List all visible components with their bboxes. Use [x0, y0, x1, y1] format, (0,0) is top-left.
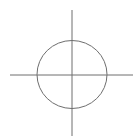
diagram-canvas: [0, 0, 139, 138]
crosshair-circle-diagram: [0, 0, 139, 138]
